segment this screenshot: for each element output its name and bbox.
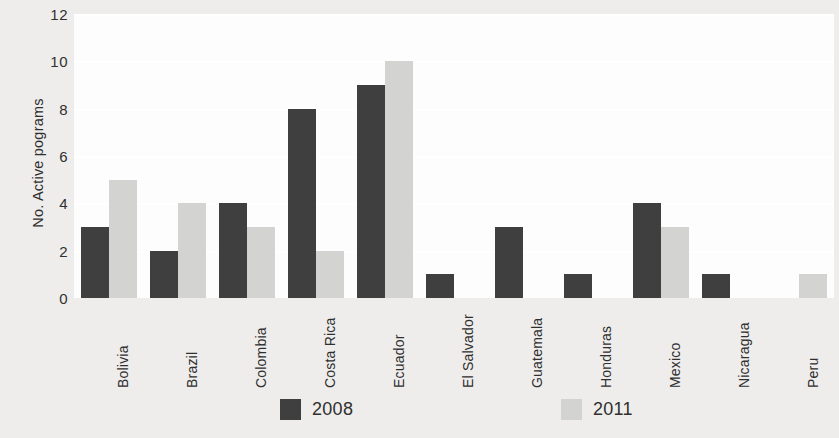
y-axis-tick-label: 6 xyxy=(20,148,68,165)
bar xyxy=(288,109,316,298)
x-axis-tick-label: Costa Rica xyxy=(322,318,338,388)
bar-chart-figure: No. Active pograms 121086420 BoliviaBraz… xyxy=(0,0,839,438)
bar xyxy=(81,227,109,298)
y-axis-tick-label: 0 xyxy=(20,290,68,307)
bar xyxy=(702,274,730,298)
y-axis-tick-label: 10 xyxy=(20,53,68,70)
bar xyxy=(316,251,344,298)
bar-group xyxy=(564,14,620,298)
bar xyxy=(247,227,275,298)
x-axis-tick-label: Nicaragua xyxy=(736,322,752,388)
bar-group xyxy=(426,14,482,298)
bar-group xyxy=(495,14,551,298)
x-axis-tick-label: Brazil xyxy=(184,352,200,388)
y-axis-tick-labels: 121086420 xyxy=(20,0,68,310)
bar-group xyxy=(150,14,206,298)
bar xyxy=(385,61,413,298)
chart-legend: 20082011 xyxy=(74,399,834,433)
legend-label: 2008 xyxy=(312,399,353,420)
legend-item[interactable]: 2008 xyxy=(280,399,353,420)
x-axis-tick-label: Ecuador xyxy=(391,334,407,388)
bar xyxy=(178,203,206,298)
bar-group xyxy=(357,14,413,298)
bar-group xyxy=(288,14,344,298)
bar xyxy=(564,274,592,298)
x-axis-tick-label: Colombia xyxy=(253,327,269,388)
bar xyxy=(150,251,178,298)
bar xyxy=(109,180,137,298)
y-axis-tick-label: 8 xyxy=(20,100,68,117)
legend-swatch-icon xyxy=(280,399,301,420)
bars-layer xyxy=(74,14,834,298)
bar xyxy=(219,203,247,298)
plot-area xyxy=(74,14,834,298)
bar xyxy=(495,227,523,298)
y-axis-tick-label: 12 xyxy=(20,6,68,23)
bar-group xyxy=(702,14,758,298)
bar-group xyxy=(633,14,689,298)
x-axis-tick-label: Bolivia xyxy=(115,345,131,388)
x-axis-tick-label: Honduras xyxy=(598,326,614,388)
bar xyxy=(799,274,827,298)
bar-group xyxy=(771,14,827,298)
bar-group xyxy=(219,14,275,298)
bar-group xyxy=(81,14,137,298)
legend-swatch-icon xyxy=(561,399,582,420)
x-axis-tick-labels: BoliviaBrazilColombiaCosta RicaEcuadorEl… xyxy=(74,300,834,395)
x-axis-tick-label: El Salvador xyxy=(460,314,476,388)
x-axis-tick-label: Guatemala xyxy=(529,318,545,388)
bar xyxy=(661,227,689,298)
legend-item[interactable]: 2011 xyxy=(561,399,633,420)
x-axis-tick-label: Peru xyxy=(805,358,821,388)
bar xyxy=(633,203,661,298)
y-axis-tick-label: 2 xyxy=(20,242,68,259)
bar xyxy=(357,85,385,298)
y-axis-tick-label: 4 xyxy=(20,195,68,212)
x-axis-tick-label: Mexico xyxy=(667,342,683,388)
bar xyxy=(426,274,454,298)
legend-label: 2011 xyxy=(593,399,633,420)
